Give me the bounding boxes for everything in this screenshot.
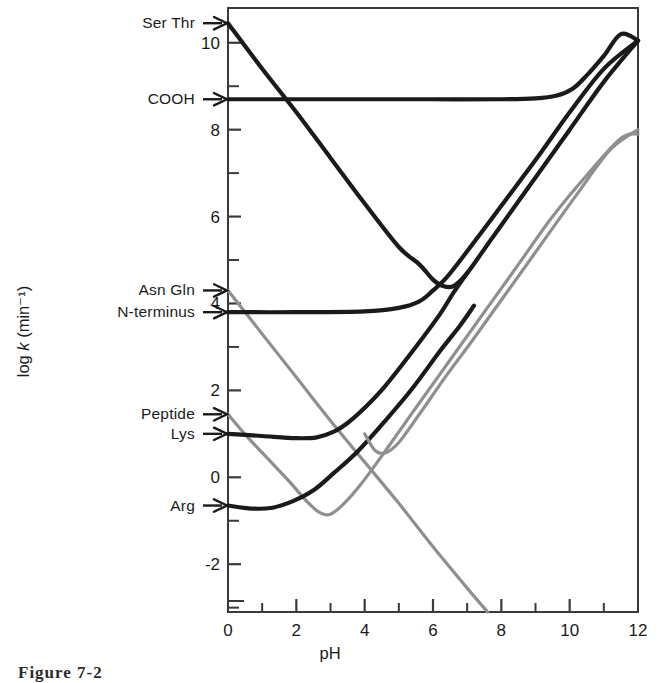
x-tick-label: 2 xyxy=(292,622,301,639)
curve-cooh xyxy=(228,34,638,100)
x-tick-label: 10 xyxy=(560,622,579,639)
curve-lys xyxy=(228,273,467,438)
y-tick-label: 8 xyxy=(186,121,220,138)
arrow-pointer-group xyxy=(203,17,227,512)
curve-group xyxy=(228,23,638,612)
x-tick-label: 4 xyxy=(360,622,369,639)
x-tick-label: 8 xyxy=(497,622,506,639)
x-tick-label: 0 xyxy=(223,622,232,639)
annotation-label-arg: Arg xyxy=(0,498,195,514)
curve-ser-thr xyxy=(228,23,638,287)
y-tick-label: 6 xyxy=(186,208,220,225)
y-tick-label: 2 xyxy=(186,382,220,399)
curve-n-terminus xyxy=(228,41,638,313)
curve-peptide-upper-branch xyxy=(365,130,638,454)
x-tick-label: 12 xyxy=(629,622,648,639)
annotation-label-lys: Lys xyxy=(0,426,195,442)
y-axis-ticks xyxy=(228,43,241,608)
x-axis-title: pH xyxy=(0,644,660,663)
annotation-label-ser-thr: Ser Thr xyxy=(0,15,195,31)
y-tick-label: 10 xyxy=(186,34,220,51)
y-tick-label: -2 xyxy=(186,556,220,573)
x-axis-ticks xyxy=(228,599,604,612)
x-tick-label: 6 xyxy=(428,622,437,639)
y-axis-title-suffix: (min⁻¹) xyxy=(14,286,32,343)
figure-caption: Figure 7-2 xyxy=(18,663,103,683)
y-axis-title: log k (min⁻¹) xyxy=(14,247,33,417)
y-axis-title-prefix: log xyxy=(14,351,32,378)
y-tick-label: 0 xyxy=(186,469,220,486)
y-axis-title-symbol: k xyxy=(14,342,32,350)
annotation-label-cooh: COOH xyxy=(0,92,195,108)
